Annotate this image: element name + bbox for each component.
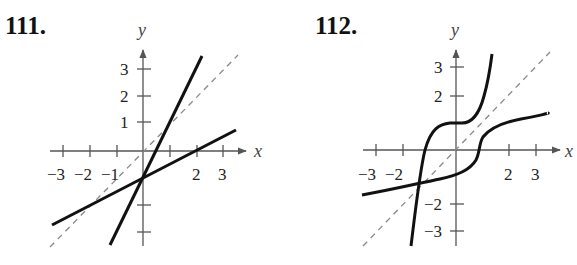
x-tick-label: 2	[504, 165, 513, 184]
y-tick-label: −2	[424, 195, 442, 214]
y-tick-label: 2	[120, 87, 129, 106]
y-axis-label: y	[449, 20, 459, 40]
y-axis-label: y	[136, 20, 146, 40]
x-tick-label: −2	[74, 165, 92, 184]
graph-111: x y −3 −2 −1 2 3 3 2 1	[47, 20, 262, 247]
x-tick-label: −3	[47, 165, 65, 184]
figures-canvas: x y −3 −2 −1 2 3 3 2 1 x y −3 −2 2 3 3 2…	[0, 0, 577, 265]
x-tick-label: −3	[358, 165, 376, 184]
x-axis-label: x	[253, 141, 262, 161]
y-tick-label: −3	[424, 222, 442, 241]
x-axis-label: x	[564, 141, 573, 161]
x-tick-label: −2	[385, 165, 403, 184]
x-tick-label: 3	[218, 165, 227, 184]
x-tick-label: 3	[531, 165, 540, 184]
x-tick-label: −1	[101, 165, 119, 184]
x-tick-label: 2	[192, 165, 201, 184]
y-tick-label: 3	[120, 60, 129, 79]
y-tick-label: 3	[434, 58, 443, 77]
graph-112: x y −3 −2 2 3 3 2 −2 −3	[358, 20, 573, 246]
y-tick-label: 2	[434, 87, 443, 106]
y-tick-label: 1	[120, 113, 129, 132]
